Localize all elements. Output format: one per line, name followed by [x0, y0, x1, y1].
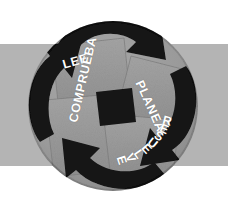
- cycle-wheel-graphic: [0, 0, 228, 207]
- arrow-hub: [96, 88, 136, 126]
- wheel-contents: [29, 18, 197, 190]
- image-canvas: LEE PLANEA COMPRUEBA RESUELVE: [0, 0, 228, 207]
- cycle-diagram: LEE PLANEA COMPRUEBA RESUELVE: [0, 0, 228, 207]
